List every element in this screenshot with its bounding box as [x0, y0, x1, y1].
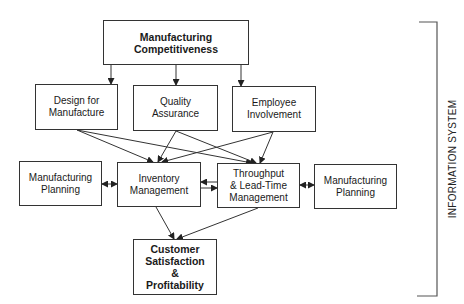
- node-inventory-management: Inventory Management: [117, 162, 201, 207]
- node-label: Quality Assurance: [152, 96, 199, 120]
- node-label: Employee Involvement: [247, 97, 301, 121]
- node-label: Throughput & Lead-Time Management: [229, 168, 287, 204]
- edge-employee-inventory: [162, 132, 273, 162]
- node-label: Manufacturing Planning: [324, 175, 387, 199]
- edge-quality-inventory: [158, 131, 176, 162]
- node-label: Manufacturing Planning: [29, 172, 92, 196]
- node-label: Inventory Management: [130, 173, 188, 197]
- edge-employee-throughput: [260, 132, 273, 163]
- node-customer-satisfaction-profitability: Customer Satisfaction & Profitability: [133, 239, 217, 295]
- node-label: Design for Manufacture: [49, 95, 105, 119]
- node-label: Customer Satisfaction & Profitability: [145, 243, 205, 291]
- node-manufacturing-planning-right: Manufacturing Planning: [314, 164, 397, 209]
- edge-inventory-customer: [156, 207, 174, 239]
- node-manufacturing-planning-left: Manufacturing Planning: [19, 161, 102, 206]
- node-label: Manufacturing Competitiveness: [134, 31, 218, 55]
- node-throughput-lead-time-management: Throughput & Lead-Time Management: [217, 163, 300, 208]
- information-system-bracket: [417, 22, 437, 296]
- node-design-for-manufacture: Design for Manufacture: [35, 84, 118, 130]
- edge-design-throughput: [77, 130, 252, 163]
- node-employee-involvement: Employee Involvement: [232, 86, 316, 132]
- edge-design-inventory: [77, 130, 153, 162]
- information-system-label: INFORMATION SYSTEM: [447, 100, 458, 219]
- node-manufacturing-competitiveness: Manufacturing Competitiveness: [103, 20, 249, 65]
- edge-throughput-customer: [177, 208, 258, 239]
- node-quality-assurance: Quality Assurance: [133, 85, 218, 131]
